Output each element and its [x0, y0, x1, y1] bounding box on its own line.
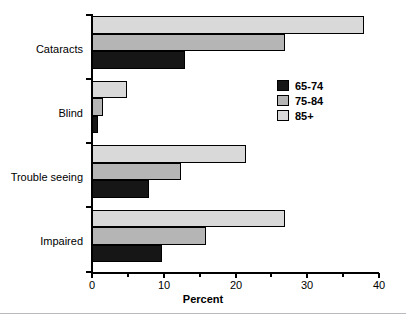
bar-blind-65-74: [92, 116, 98, 134]
bar-blind-75-84: [92, 98, 103, 116]
bar-cataracts-65-74: [92, 51, 185, 69]
x-axis-tick-label-20: 20: [230, 279, 242, 291]
legend-item-65-74: 65-74: [277, 79, 323, 92]
legend: 65-74 75-84 85+: [277, 79, 323, 122]
x-axis-tick-minor-15: [199, 273, 201, 277]
x-axis-title: Percent: [0, 293, 406, 305]
legend-swatch-icon-85-plus: [277, 110, 289, 121]
bar-trouble-seeing-75-84: [92, 163, 181, 181]
bar-blind-85-plus: [92, 81, 127, 99]
x-axis-tick-10: [163, 273, 165, 278]
y-axis-label-impaired: Impaired: [40, 235, 83, 247]
plot-area: [92, 14, 378, 272]
bar-impaired-75-84: [92, 227, 206, 245]
legend-label-65-74: 65-74: [295, 80, 323, 92]
y-axis-label-trouble-seeing: Trouble seeing: [11, 171, 83, 183]
legend-label-75-84: 75-84: [295, 95, 323, 107]
bar-cataracts-85-plus: [92, 16, 364, 34]
y-axis-tick-3: [86, 206, 91, 208]
x-axis-tick-40: [378, 273, 380, 278]
y-axis-tick-1: [86, 78, 91, 80]
y-axis-label-cataracts: Cataracts: [36, 43, 83, 55]
y-axis-category-labels: Cataracts Blind Trouble seeing Impaired: [0, 0, 83, 324]
chart-figure: Cataracts Blind Trouble seeing Impaired …: [0, 0, 406, 324]
bar-trouble-seeing-65-74: [92, 180, 149, 198]
legend-label-85-plus: 85+: [295, 110, 314, 122]
x-axis-tick-minor-35: [342, 273, 344, 277]
x-axis-tick-label-0: 0: [89, 279, 95, 291]
x-axis-tick-30: [306, 273, 308, 278]
y-axis-tick-2: [86, 142, 91, 144]
x-axis-tick-minor-5: [127, 273, 129, 277]
x-axis-tick-minor-25: [270, 273, 272, 277]
x-axis-tick-label-30: 30: [301, 279, 313, 291]
x-axis-tick-0: [91, 273, 93, 278]
bar-cataracts-75-84: [92, 34, 285, 52]
x-axis-tick-20: [235, 273, 237, 278]
y-axis-label-blind: Blind: [59, 107, 83, 119]
x-axis-tick-label-40: 40: [373, 279, 385, 291]
legend-item-85-plus: 85+: [277, 109, 323, 122]
bar-impaired-85-plus: [92, 210, 285, 228]
bottom-divider: [0, 313, 406, 314]
bar-trouble-seeing-85-plus: [92, 145, 246, 163]
x-axis-tick-label-10: 10: [158, 279, 170, 291]
legend-swatch-icon-65-74: [277, 80, 289, 91]
legend-swatch-icon-75-84: [277, 95, 289, 106]
legend-item-75-84: 75-84: [277, 94, 323, 107]
y-axis-tick-0: [86, 14, 91, 16]
bar-impaired-65-74: [92, 245, 162, 263]
